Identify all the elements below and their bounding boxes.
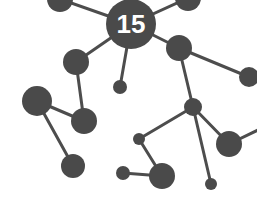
network-diagram: 15 (0, 0, 257, 207)
node-a (63, 49, 89, 75)
node-small-center (113, 80, 127, 94)
node-top-left (47, 0, 73, 12)
node-top-right (175, 0, 201, 11)
node-c (71, 108, 97, 134)
node-g (149, 163, 175, 189)
node-big-left (22, 86, 52, 116)
edge-d-e (139, 107, 193, 139)
node-b (166, 35, 192, 61)
node-i (205, 178, 217, 190)
node-e (133, 133, 145, 145)
node-far-right (239, 67, 257, 87)
node-bottom-left (61, 154, 85, 178)
edge-d-i (193, 107, 211, 184)
hub-label: 15 (117, 9, 146, 39)
node-h (116, 166, 130, 180)
node-d (184, 98, 202, 116)
node-f (216, 131, 242, 157)
